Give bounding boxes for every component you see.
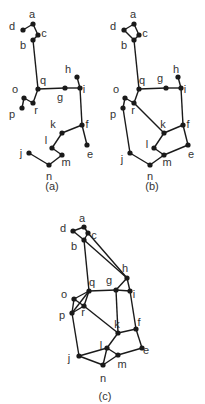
node-label-a-i: i	[83, 83, 85, 95]
node-label-a-q: q	[40, 74, 46, 86]
node-a-n	[46, 162, 51, 167]
node-a-q	[35, 86, 40, 91]
node-c-g	[113, 287, 118, 292]
node-a-o	[21, 95, 26, 100]
node-b-k	[161, 130, 166, 135]
edge-b-p-j	[123, 108, 130, 153]
node-a-j	[26, 150, 31, 155]
node-label-c-f: f	[137, 316, 141, 328]
node-label-a-f: f	[85, 118, 89, 130]
edge-a-k-l	[52, 133, 62, 148]
node-c-m	[115, 352, 120, 357]
edge-a-f-k	[62, 125, 82, 133]
node-label-b-c: c	[142, 27, 148, 39]
node-label-c-g: g	[106, 274, 112, 286]
node-label-b-k: k	[160, 118, 166, 130]
node-label-a-e: e	[87, 148, 93, 160]
graph-diagram: adcbqgihoprfeklmnjadcbqgihoprfeklmnjadcb…	[0, 0, 205, 404]
edge-a-i-f	[80, 88, 82, 125]
edge-b-i-f	[181, 88, 183, 125]
node-b-q	[136, 86, 141, 91]
caption-a: (a)	[45, 180, 58, 192]
edge-c-l-k	[107, 333, 118, 348]
node-a-e	[84, 142, 89, 147]
edge-c-p-j	[72, 313, 79, 356]
edge-c-k-f	[118, 329, 136, 333]
node-a-a	[30, 21, 35, 26]
node-label-b-i: i	[184, 83, 186, 95]
edge-b-q-g	[139, 88, 166, 89]
node-label-a-g: g	[57, 91, 63, 103]
edges-layer	[22, 24, 188, 365]
node-a-g	[62, 85, 67, 90]
node-b-c	[136, 32, 141, 37]
edge-a-b-q	[33, 40, 38, 89]
node-b-g	[163, 85, 168, 90]
node-label-c-m: m	[117, 358, 126, 370]
node-b-f	[180, 122, 185, 127]
node-label-c-c: c	[91, 229, 97, 241]
edge-a-n-j	[29, 153, 49, 165]
node-label-c-a: a	[79, 212, 86, 224]
node-b-a	[131, 21, 136, 26]
node-label-c-b: b	[71, 240, 77, 252]
node-label-c-p: p	[59, 309, 65, 321]
edge-b-j-n	[130, 153, 150, 165]
node-label-b-b: b	[121, 39, 127, 51]
caption-b: (b)	[145, 180, 158, 192]
caption-c: (c)	[99, 390, 112, 402]
node-label-c-i: i	[133, 288, 135, 300]
node-c-n	[100, 362, 105, 367]
node-label-a-d: d	[9, 20, 15, 32]
node-label-a-j: j	[19, 147, 22, 159]
node-a-p	[19, 105, 24, 110]
node-a-k	[59, 130, 64, 135]
node-label-c-k: k	[114, 318, 120, 330]
node-label-b-q: q	[139, 74, 145, 86]
node-a-c	[35, 32, 40, 37]
edge-c-q-g	[89, 290, 116, 291]
node-label-c-r: r	[81, 306, 85, 318]
node-c-h	[124, 275, 129, 280]
edge-a-q-g	[38, 88, 65, 89]
node-label-c-n: n	[100, 372, 106, 384]
node-b-h	[175, 74, 180, 79]
node-label-b-l: l	[146, 138, 148, 150]
node-b-p	[120, 105, 125, 110]
node-label-b-f: f	[186, 118, 190, 130]
node-a-l	[49, 145, 54, 150]
edge-b-l-k	[154, 133, 164, 148]
edge-c-f-e	[136, 329, 142, 348]
node-label-b-p: p	[110, 108, 116, 120]
node-c-c	[85, 230, 90, 235]
node-label-b-d: d	[110, 20, 116, 32]
node-c-k	[115, 330, 120, 335]
node-label-a-b: b	[20, 39, 26, 51]
node-label-a-r: r	[34, 104, 38, 116]
node-b-l	[151, 145, 156, 150]
node-a-h	[74, 74, 79, 79]
node-label-c-l: l	[100, 339, 102, 351]
edge-b-k-f	[164, 125, 183, 133]
edge-b-e-m	[164, 145, 188, 155]
node-label-b-a: a	[130, 8, 137, 20]
node-a-f	[79, 122, 84, 127]
node-label-a-h: h	[65, 63, 71, 75]
node-label-a-p: p	[9, 108, 15, 120]
node-label-a-k: k	[50, 118, 56, 130]
node-label-b-r: r	[131, 104, 135, 116]
node-label-b-o: o	[113, 83, 119, 95]
labels-layer: adcbqgihoprfeklmnjadcbqgihoprfeklmnjadcb…	[9, 8, 194, 384]
node-label-a-m: m	[61, 156, 70, 168]
node-c-j	[76, 353, 81, 358]
node-b-e	[185, 142, 190, 147]
edge-c-j-n	[79, 356, 103, 365]
edge-c-j-l	[79, 348, 107, 356]
node-label-a-a: a	[29, 8, 36, 20]
edge-c-b-h	[84, 240, 127, 278]
node-label-c-d: d	[60, 222, 66, 234]
node-label-c-e: e	[143, 344, 149, 356]
node-c-d	[70, 228, 75, 233]
node-b-o	[122, 95, 127, 100]
node-label-b-h: h	[173, 63, 179, 75]
